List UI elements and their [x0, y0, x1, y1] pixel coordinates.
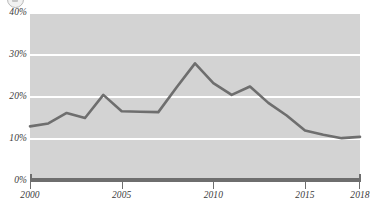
y-tick-label-30: 30% — [0, 49, 27, 59]
x-axis-end-cap — [359, 174, 361, 182]
x-tick-mark-2005 — [122, 182, 123, 189]
x-tick-mark-2000 — [30, 182, 31, 189]
x-tick-label-2005: 2005 — [112, 190, 131, 200]
y-tick-label-20: 20% — [0, 91, 27, 101]
y-tick-label-10: 10% — [0, 133, 27, 143]
y-axis-tick-labels: 0%10%20%30%40% — [0, 0, 27, 213]
plot-area — [30, 13, 360, 181]
series-1-line — [30, 63, 360, 138]
y-tick-label-40: 40% — [0, 7, 27, 17]
x-axis-start-cap — [30, 174, 32, 182]
x-tick-label-2010: 2010 — [204, 190, 223, 200]
x-tick-mark-2018 — [359, 182, 360, 189]
x-tick-label-2000: 2000 — [20, 190, 39, 200]
x-tick-label-2018: 2018 — [350, 190, 369, 200]
x-tick-mark-2015 — [305, 182, 306, 189]
x-tick-mark-2010 — [213, 182, 214, 189]
x-tick-label-2015: 2015 — [295, 190, 314, 200]
chart-page: 0%10%20%30%40% 20002005201020152018 — [0, 0, 371, 213]
y-tick-label-0: 0% — [0, 175, 27, 185]
x-axis-line — [30, 178, 361, 182]
series-line-chart — [30, 13, 360, 181]
